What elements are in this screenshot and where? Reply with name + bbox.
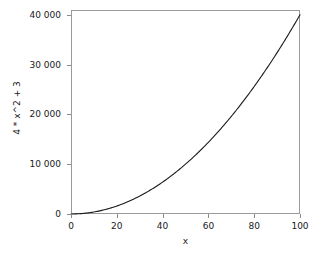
y-axis-title: 4 * x^2 + 3 (12, 58, 22, 158)
y-tick-mark (67, 15, 71, 16)
x-tick-mark (254, 214, 255, 218)
x-axis-title: x (71, 236, 300, 246)
x-tick-mark (208, 214, 209, 218)
x-tick-label: 20 (97, 221, 137, 231)
x-tick-mark (117, 214, 118, 218)
chart-figure: 020406080100 010 00020 00030 00040 000 x… (0, 0, 314, 255)
y-tick-mark (67, 114, 71, 115)
x-tick-label: 40 (143, 221, 183, 231)
y-tick-label: 10 000 (13, 159, 61, 169)
x-tick-mark (163, 214, 164, 218)
y-tick-label: 0 (13, 209, 61, 219)
x-tick-mark (300, 214, 301, 218)
x-tick-label: 60 (188, 221, 228, 231)
x-tick-mark (71, 214, 72, 218)
quadratic-curve (71, 15, 300, 214)
y-tick-label: 40 000 (13, 10, 61, 20)
x-tick-label: 0 (51, 221, 91, 231)
curve-series (71, 10, 300, 214)
y-tick-mark (67, 164, 71, 165)
y-tick-mark (67, 214, 71, 215)
x-tick-label: 100 (280, 221, 314, 231)
x-tick-label: 80 (234, 221, 274, 231)
y-tick-mark (67, 65, 71, 66)
